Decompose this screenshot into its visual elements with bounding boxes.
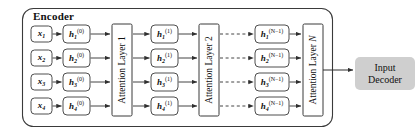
hidden-node-h4-1[interactable]: h4(1) [151, 97, 178, 115]
hidden-node-h3-1-sup: (1) [165, 76, 172, 82]
hidden-node-h1-nm1[interactable]: h1(N−1) [255, 25, 289, 43]
attention-layer-n-index: N [308, 35, 318, 41]
hidden-node-h4-nm1-sup: (N−1) [269, 100, 284, 106]
hidden-node-h1-nm1-sub: 1 [266, 34, 269, 40]
hidden-node-h1-0-sup: (0) [77, 28, 84, 34]
attention-layer-n-prefix: Attention Layer [308, 42, 318, 105]
input-node-x1-sub: 1 [42, 33, 45, 39]
input-decoder-line1: Input [374, 62, 395, 74]
hidden-node-h3-0-sub: 3 [74, 82, 77, 88]
hidden-node-h3-1-sub: 3 [162, 82, 165, 88]
attention-layer-1[interactable]: Attention Layer 1 [112, 24, 132, 116]
hidden-node-h1-1-sup: (1) [165, 28, 172, 34]
hidden-node-h2-1[interactable]: h2(1) [151, 49, 178, 67]
hidden-node-h4-0[interactable]: h4(0) [63, 97, 90, 115]
diagram-canvas: Encoder x1 x2 x3 x4 h1(0) h2(0) h3(0) h4… [0, 0, 420, 137]
hidden-node-h3-1[interactable]: h3(1) [151, 73, 178, 91]
hidden-node-h2-nm1-sub: 2 [266, 58, 269, 64]
hidden-node-h2-0-sub: 2 [74, 58, 77, 64]
hidden-node-h3-nm1-sub: 3 [266, 82, 269, 88]
hidden-node-h2-1-sub: 2 [162, 58, 165, 64]
input-node-x2-sub: 2 [42, 57, 45, 63]
hidden-node-h1-nm1-sup: (N−1) [269, 28, 284, 34]
hidden-node-h2-nm1[interactable]: h2(N−1) [255, 49, 289, 67]
attention-layer-1-prefix: Attention Layer [117, 41, 127, 104]
attention-layer-1-label: Attention Layer 1 [117, 36, 127, 104]
hidden-node-h3-0-sup: (0) [77, 76, 84, 82]
hidden-node-h3-nm1-sup: (N−1) [269, 76, 284, 82]
input-node-x2[interactable]: x2 [31, 50, 52, 66]
input-decoder[interactable]: Input Decoder [355, 57, 415, 90]
hidden-node-h1-0-sub: 1 [74, 34, 77, 40]
hidden-node-h4-1-sup: (1) [165, 100, 172, 106]
hidden-node-h2-1-sup: (1) [165, 52, 172, 58]
attention-layer-2-index: 2 [204, 36, 214, 41]
attention-layer-2-label: Attention Layer 2 [204, 36, 214, 104]
input-node-x3-sub: 3 [42, 81, 45, 87]
hidden-node-h3-0[interactable]: h3(0) [63, 73, 90, 91]
hidden-node-h1-1-sub: 1 [162, 34, 165, 40]
hidden-node-h4-0-sub: 4 [74, 106, 77, 112]
attention-layer-2[interactable]: Attention Layer 2 [199, 24, 219, 116]
attention-layer-n-label: Attention Layer N [308, 35, 318, 104]
input-node-x4-sub: 4 [42, 105, 45, 111]
attention-layer-n[interactable]: Attention Layer N [303, 24, 323, 116]
input-node-x3[interactable]: x3 [31, 74, 52, 90]
hidden-node-h1-1[interactable]: h1(1) [151, 25, 178, 43]
hidden-node-h4-1-sub: 4 [162, 106, 165, 112]
hidden-node-h4-nm1-sub: 4 [266, 106, 269, 112]
hidden-node-h1-0[interactable]: h1(0) [63, 25, 90, 43]
hidden-node-h2-0[interactable]: h2(0) [63, 49, 90, 67]
input-node-x1[interactable]: x1 [31, 26, 52, 42]
attention-layer-1-index: 1 [117, 36, 127, 41]
hidden-node-h2-nm1-sup: (N−1) [269, 52, 284, 58]
attention-layer-2-prefix: Attention Layer [204, 41, 214, 104]
hidden-node-h2-0-sup: (0) [77, 52, 84, 58]
input-decoder-line2: Decoder [368, 74, 402, 86]
hidden-node-h4-nm1[interactable]: h4(N−1) [255, 97, 289, 115]
hidden-node-h3-nm1[interactable]: h3(N−1) [255, 73, 289, 91]
encoder-label: Encoder [33, 10, 74, 22]
input-node-x4[interactable]: x4 [31, 98, 52, 114]
hidden-node-h4-0-sup: (0) [77, 100, 84, 106]
